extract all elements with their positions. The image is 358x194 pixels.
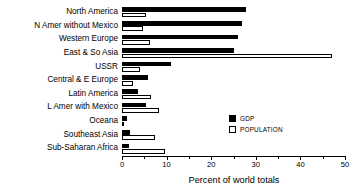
legend-label-population: POPULATION xyxy=(240,126,283,133)
legend-swatch-gdp xyxy=(229,115,236,122)
x-tick-minor xyxy=(234,156,235,159)
bar-gdp xyxy=(122,35,238,40)
bar-population xyxy=(122,95,151,100)
bar-population xyxy=(122,67,140,72)
legend-item-population: POPULATION xyxy=(229,124,283,135)
bar-row xyxy=(122,33,345,47)
legend-swatch-population xyxy=(229,126,236,133)
bar-gdp xyxy=(122,116,127,121)
x-tick-label: 40 xyxy=(296,160,304,169)
bar-row xyxy=(122,142,345,156)
category-label: Western Europe xyxy=(59,33,118,47)
category-label: North America xyxy=(66,6,118,20)
bar-population xyxy=(122,108,159,113)
legend-label-gdp: GDP xyxy=(240,115,254,122)
category-label: Oceana xyxy=(89,115,118,129)
legend-item-gdp: GDP xyxy=(229,113,283,124)
bar-gdp xyxy=(122,89,138,94)
category-label: N Amer without Mexico xyxy=(34,20,118,34)
x-tick-minor xyxy=(189,156,190,159)
x-tick-minor xyxy=(278,156,279,159)
x-tick-minor xyxy=(323,156,324,159)
x-tick-label: 10 xyxy=(162,160,170,169)
bar-population xyxy=(122,13,146,18)
x-axis-title: Percent of world totals xyxy=(122,175,346,185)
bar-gdp xyxy=(122,103,146,108)
category-label: Southeast Asia xyxy=(63,129,118,143)
bar-row xyxy=(122,74,345,88)
bar-gdp xyxy=(122,21,242,26)
bar-row xyxy=(122,61,345,75)
bar-population xyxy=(122,26,143,31)
x-tick-label: 0 xyxy=(120,160,124,169)
bar-gdp xyxy=(122,62,171,67)
bar-row xyxy=(122,88,345,102)
x-tick-minor xyxy=(144,156,145,159)
bar-population xyxy=(122,122,124,127)
category-label: Sub-Saharan Africa xyxy=(47,142,118,156)
bar-row xyxy=(122,6,345,20)
bar-row xyxy=(122,20,345,34)
bar-population xyxy=(122,40,150,45)
bar-population xyxy=(122,54,332,59)
category-label: Latin America xyxy=(68,88,118,102)
bar-chart: North AmericaN Amer without MexicoWester… xyxy=(0,0,358,194)
x-tick-label: 20 xyxy=(207,160,215,169)
bar-gdp xyxy=(122,144,129,149)
x-tick-label: 50 xyxy=(341,160,349,169)
category-axis-labels: North AmericaN Amer without MexicoWester… xyxy=(0,6,118,156)
bar-population xyxy=(122,149,165,154)
bar-gdp xyxy=(122,130,130,135)
bar-gdp xyxy=(122,75,148,80)
category-label: USSR xyxy=(95,61,118,75)
category-label: East & So Asia xyxy=(64,47,118,61)
x-tick-label: 30 xyxy=(252,160,260,169)
bar-gdp xyxy=(122,7,246,12)
bar-population xyxy=(122,135,155,140)
chart-legend: GDP POPULATION xyxy=(229,113,283,135)
category-label: Central & E Europe xyxy=(47,74,118,88)
category-label: L Amer with Mexico xyxy=(47,101,118,115)
bar-row xyxy=(122,47,345,61)
bar-gdp xyxy=(122,48,234,53)
bar-population xyxy=(122,81,133,86)
